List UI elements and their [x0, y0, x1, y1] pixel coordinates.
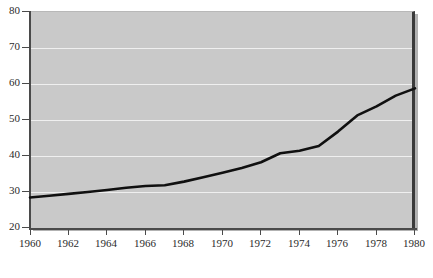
x-tick-1968 [183, 230, 184, 235]
y-tick-30 [22, 191, 29, 192]
y-axis-line [29, 11, 31, 229]
y-axis-label-70: 70 [0, 41, 20, 52]
gridline-40 [30, 156, 412, 157]
x-tick-1960 [30, 230, 31, 235]
y-tick-20 [22, 227, 29, 228]
gridline-30 [30, 192, 412, 193]
gridline-70 [30, 48, 412, 49]
x-axis-label-1980: 1980 [391, 238, 433, 249]
y-axis-label-80: 80 [0, 5, 20, 16]
x-tick-1974 [299, 230, 300, 235]
gridline-50 [30, 120, 412, 121]
y-axis-label-30: 30 [0, 185, 20, 196]
line-chart: 80 70 60 50 40 30 20 1960 1962 1964 1966… [0, 0, 433, 278]
y-tick-80 [22, 11, 29, 12]
y-tick-60 [22, 83, 29, 84]
y-axis-label-20: 20 [0, 221, 20, 232]
x-tick-1980 [414, 230, 415, 235]
x-tick-1970 [222, 230, 223, 235]
x-tick-1962 [68, 230, 69, 235]
x-tick-1978 [376, 230, 377, 235]
y-tick-70 [22, 47, 29, 48]
y-axis-label-40: 40 [0, 149, 20, 160]
y-axis-label-60: 60 [0, 77, 20, 88]
x-axis-line [29, 228, 417, 230]
x-tick-1966 [145, 230, 146, 235]
y-axis-label-50: 50 [0, 113, 20, 124]
x-tick-1964 [106, 230, 107, 235]
y-tick-50 [22, 119, 29, 120]
x-tick-1976 [337, 230, 338, 235]
x-tick-1972 [260, 230, 261, 235]
gridline-60 [30, 84, 412, 85]
y-tick-40 [22, 155, 29, 156]
plot-area [30, 11, 415, 228]
